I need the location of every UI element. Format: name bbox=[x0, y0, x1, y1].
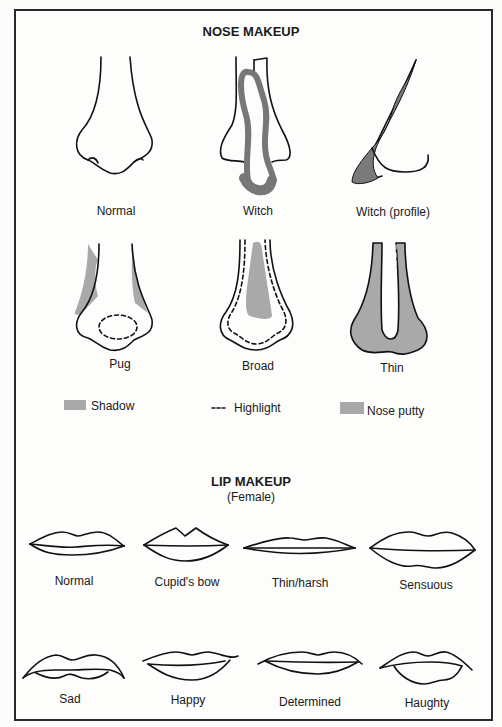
lips-determined-illustration bbox=[258, 652, 362, 674]
lips-sensuous-illustration bbox=[370, 532, 475, 568]
nose-putty-swatch bbox=[340, 402, 364, 414]
lips-normal-illustration bbox=[30, 532, 124, 555]
lip-makeup-title: LIP MAKEUP bbox=[0, 474, 502, 489]
lip-label-normal: Normal bbox=[14, 574, 134, 588]
lips-sad-illustration bbox=[23, 655, 124, 679]
lip-label-thin-harsh: Thin/harsh bbox=[240, 576, 360, 590]
lips-cupids-bow-illustration bbox=[144, 528, 228, 561]
nose-label-witch: Witch bbox=[198, 204, 318, 218]
legend-shadow-label: Shadow bbox=[91, 399, 134, 413]
lip-label-determined: Determined bbox=[250, 695, 370, 709]
nose-pug-illustration bbox=[75, 244, 152, 350]
lip-label-happy: Happy bbox=[128, 693, 248, 707]
nose-witch-illustration bbox=[220, 57, 290, 192]
lips-haughty-illustration bbox=[380, 652, 472, 684]
lip-label-sensuous: Sensuous bbox=[366, 578, 486, 592]
lip-label-cupids-bow: Cupid's bow bbox=[127, 575, 247, 589]
nose-normal-illustration bbox=[77, 57, 153, 174]
nose-label-thin: Thin bbox=[332, 361, 452, 375]
lip-label-sad: Sad bbox=[10, 692, 130, 706]
lip-makeup-subtitle: (Female) bbox=[0, 490, 502, 504]
lips-thin-harsh-illustration bbox=[244, 538, 355, 553]
nose-thin-illustration bbox=[351, 243, 427, 354]
shadow-swatch bbox=[64, 400, 86, 410]
lips-happy-illustration bbox=[143, 652, 238, 680]
nose-witch-profile-illustration bbox=[352, 60, 428, 184]
lip-label-haughty: Haughty bbox=[367, 696, 487, 710]
nose-broad-illustration bbox=[220, 240, 292, 350]
nose-label-witch-profile: Witch (profile) bbox=[333, 205, 453, 219]
nose-label-pug: Pug bbox=[60, 357, 180, 371]
legend-nose-putty-label: Nose putty bbox=[367, 404, 424, 418]
nose-label-normal: Normal bbox=[56, 204, 176, 218]
nose-makeup-title: NOSE MAKEUP bbox=[0, 24, 502, 39]
nose-label-broad: Broad bbox=[198, 359, 318, 373]
legend-highlight-label: Highlight bbox=[234, 401, 281, 415]
